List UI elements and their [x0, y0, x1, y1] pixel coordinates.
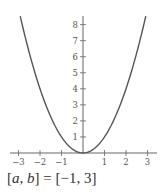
y-tick-label: 4 — [73, 84, 78, 94]
y-tick-label: 5 — [73, 68, 78, 78]
y-tick-label: 1 — [73, 132, 78, 142]
caption-rest: ] = [−1, 3] — [35, 170, 97, 186]
x-tick-label: 3 — [145, 157, 150, 167]
caption-var-b: b — [27, 170, 35, 186]
x-tick-label: 2 — [123, 157, 128, 167]
x-tick-label: −2 — [34, 157, 47, 167]
x-tick-label: 1 — [102, 157, 107, 167]
y-axis-ticks: 12345678 — [73, 20, 86, 142]
y-tick-label: 7 — [73, 36, 78, 46]
y-tick-label: 3 — [73, 100, 78, 110]
x-tick-label: −3 — [12, 157, 25, 167]
caption-var-a: a — [12, 170, 20, 186]
y-tick-label: 2 — [73, 116, 78, 126]
plot-area: −3−2−1123 12345678 — [0, 0, 165, 170]
interval-caption: [a, b] = [−1, 3] — [7, 170, 96, 187]
caption-comma: , — [20, 170, 28, 186]
parabola-figure: −3−2−1123 12345678 [a, b] = [−1, 3] — [0, 0, 165, 193]
y-tick-label: 8 — [73, 20, 78, 30]
y-tick-label: 6 — [73, 52, 78, 62]
x-tick-label: −1 — [55, 157, 68, 167]
